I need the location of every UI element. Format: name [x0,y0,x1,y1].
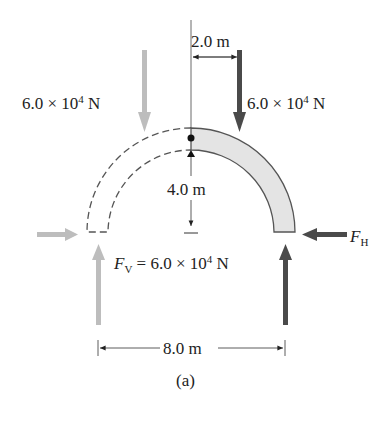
fv-label: FV = 6.0 × 104 N [114,254,229,275]
figure-caption: (a) [176,372,195,389]
right-load-label: 6.0 × 104 N [247,94,325,112]
arch-solid-half [191,128,295,232]
fh-label: FH [350,228,368,248]
apex-hinge-icon [188,135,195,142]
right-load-arrow-icon [233,112,246,132]
arch-diagram [0,0,392,423]
dim-8m-label: 8.0 m [163,340,202,357]
left-load-arrow-icon [138,112,151,132]
fh-arrow-icon [302,228,317,241]
left-horizontal-arrow-icon [65,228,78,241]
dim-2m-label: 2.0 m [191,33,230,50]
dim-4m-label: 4.0 m [167,181,206,198]
left-reaction-arrow-icon [92,244,105,260]
left-load-label: 6.0 × 104 N [22,94,100,112]
fv-arrow-icon [279,244,292,260]
